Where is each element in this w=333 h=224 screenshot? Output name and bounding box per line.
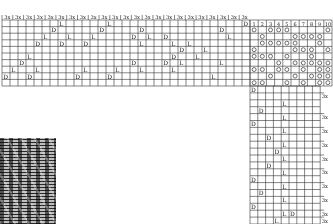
- repeat-label: 3x: [198, 14, 204, 20]
- dark-thread-mark: D: [19, 59, 24, 66]
- repeat-label: 3x: [26, 14, 32, 20]
- repeat-label: 3x: [177, 14, 183, 20]
- light-treadle-mark: L: [282, 183, 286, 190]
- tieup-circle: [293, 35, 297, 39]
- light-treadle-mark: L: [282, 141, 286, 148]
- light-thread-mark: L: [179, 59, 183, 66]
- tieup-circle: [293, 48, 297, 52]
- dark-thread-mark: D: [219, 26, 224, 33]
- light-thread-mark: L: [187, 40, 191, 47]
- tieup-circle: [301, 68, 305, 72]
- treadle-number: 5: [285, 21, 288, 27]
- tieup-circle: [318, 81, 322, 85]
- tieup-circle: [260, 41, 264, 45]
- tieup-circle: [318, 35, 322, 39]
- repeat-label: 3x: [15, 14, 21, 20]
- dark-thread-mark: D: [3, 73, 8, 80]
- light-thread-mark: L: [171, 66, 175, 73]
- dark-treadle-mark: D: [274, 148, 279, 155]
- tieup-circle: [326, 68, 330, 72]
- light-thread-mark: L: [219, 59, 223, 66]
- tieup-circle: [310, 35, 314, 39]
- dark-thread-mark: D: [163, 59, 168, 66]
- tieup-circle: [326, 81, 330, 85]
- light-thread-mark: L: [203, 46, 207, 53]
- tieup-circle: [318, 41, 322, 45]
- dark-treadle-mark: D: [259, 107, 264, 114]
- dark-thread-mark: D: [179, 46, 184, 53]
- light-treadle-mark: L: [282, 114, 286, 121]
- light-thread-mark: L: [147, 33, 151, 40]
- dark-thread-mark: D: [131, 59, 136, 66]
- light-thread-mark: L: [83, 66, 87, 73]
- repeat-label: 3x: [101, 14, 107, 20]
- dark-thread-mark: D: [163, 33, 168, 40]
- dark-thread-mark: D: [35, 40, 40, 47]
- tieup-circle: [277, 68, 281, 72]
- tieup-circle: [310, 74, 314, 78]
- tieup-circle: [301, 48, 305, 52]
- tieup-circle: [310, 48, 314, 52]
- dark-thread-mark: D: [171, 53, 176, 60]
- light-thread-mark: L: [227, 33, 231, 40]
- tieup-circle: [293, 61, 297, 65]
- repeat-label: 3x: [231, 14, 237, 20]
- tieup-circle: [326, 48, 330, 52]
- repeat-label: 3x: [322, 211, 328, 217]
- repeat-label: 3x: [112, 14, 118, 20]
- tieup-circle: [285, 68, 289, 72]
- repeat-label: 3x: [220, 14, 226, 20]
- light-thread-mark: L: [35, 66, 39, 73]
- light-treadle-mark: L: [282, 155, 286, 162]
- tieup-circle: [301, 81, 305, 85]
- repeat-label: 3x: [322, 218, 328, 224]
- dark-thread-mark: D: [107, 73, 112, 80]
- tieup-circle: [260, 54, 264, 58]
- tieup-circle: [285, 81, 289, 85]
- light-thread-mark: L: [139, 66, 143, 73]
- treadle-number: 2: [261, 21, 264, 27]
- dark-thread-mark: D: [27, 73, 32, 80]
- repeat-label: 3x: [69, 14, 75, 20]
- tieup-circle: [269, 41, 273, 45]
- repeat-label: 3x: [4, 14, 10, 20]
- repeat-label: 3x: [322, 142, 328, 148]
- repeat-label: 3x: [58, 14, 64, 20]
- light-thread-mark: L: [211, 73, 215, 80]
- repeat-label: 3x: [322, 197, 328, 203]
- light-thread-mark: L: [195, 53, 199, 60]
- light-thread-mark: L: [115, 66, 119, 73]
- tieup-circle: [252, 28, 256, 32]
- tieup-circle: [252, 68, 256, 72]
- treadle-number: 3: [269, 21, 272, 27]
- light-thread-mark: L: [43, 33, 47, 40]
- repeat-label: 3x: [209, 14, 215, 20]
- tieup-circle: [301, 35, 305, 39]
- tieup-circle: [326, 28, 330, 32]
- dark-treadle-mark: D: [267, 134, 272, 141]
- tieup-circle: [326, 61, 330, 65]
- light-thread-mark: L: [91, 33, 95, 40]
- light-thread-mark: L: [11, 66, 15, 73]
- tieup-circle: [318, 68, 322, 72]
- light-treadle-mark: L: [282, 127, 286, 134]
- dark-treadle-mark: D: [267, 162, 272, 169]
- tieup-circle: [252, 54, 256, 58]
- repeat-label: 3x: [91, 14, 97, 20]
- treadle-number: 4: [277, 21, 280, 27]
- tieup-circle: [269, 74, 273, 78]
- light-thread-mark: L: [59, 20, 63, 27]
- dark-thread-mark: D: [243, 20, 248, 27]
- tieup-circle: [269, 54, 273, 58]
- repeat-label: 3x: [322, 93, 328, 99]
- tieup-circle: [326, 74, 330, 78]
- fabric-photo: [0, 138, 56, 224]
- light-thread-mark: L: [27, 53, 31, 60]
- repeat-label: 3x: [322, 183, 328, 189]
- dark-thread-mark: D: [59, 40, 64, 47]
- threading-grid: 3x3x3x3x3x3x3x3x3x3x3x3x3x3x3x3x3x3x3x3x…: [2, 14, 250, 87]
- light-thread-mark: L: [171, 40, 175, 47]
- repeat-label: 3x: [322, 169, 328, 175]
- repeat-label: 3x: [241, 14, 247, 20]
- tieup-circle: [260, 81, 264, 85]
